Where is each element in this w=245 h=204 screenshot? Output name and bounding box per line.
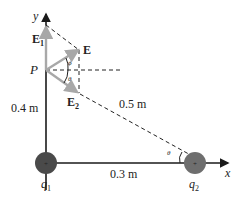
label-distance-vertical: 0.4 m (11, 101, 39, 115)
label-q1: q1 (41, 177, 51, 193)
label-distance-horizontal: 0.3 m (110, 167, 138, 181)
charge-q1-sign: + (44, 160, 48, 168)
x-axis-label: x (224, 166, 231, 180)
label-e: E (83, 43, 91, 57)
vector-e (46, 50, 78, 70)
label-theta: θ (68, 75, 72, 83)
label-theta-q2: θ (167, 149, 171, 157)
label-q2: q2 (189, 177, 199, 193)
electric-field-diagram: + + y x E1 E E2 P ϕ θ θ 0.4 m 0.3 m 0.5 … (0, 0, 245, 204)
vector-e2 (46, 70, 77, 92)
dashed-e1-to-e (46, 25, 79, 50)
label-phi: ϕ (68, 59, 72, 67)
angle-theta-q2-arc (179, 152, 182, 163)
label-distance-diagonal: 0.5 m (119, 97, 147, 111)
y-axis-label: y (32, 9, 39, 23)
label-point-p: P (29, 62, 38, 77)
label-e1: E1 (32, 32, 44, 48)
charge-q2-sign: + (193, 160, 197, 168)
label-e2: E2 (67, 95, 79, 111)
